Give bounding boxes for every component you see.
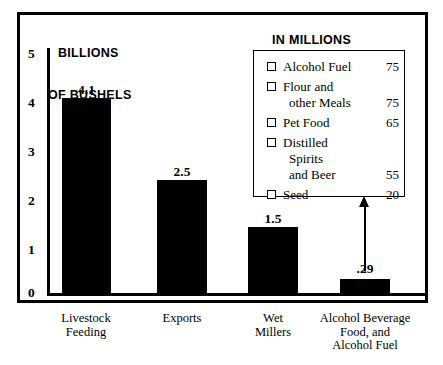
legend-item-label: Flour and <box>283 79 333 95</box>
bar <box>248 227 298 293</box>
y-axis-tick-label: 3 <box>28 145 42 158</box>
legend-item-line: other Meals75 <box>267 95 399 111</box>
legend-item: Pet Food65 <box>267 115 399 131</box>
y-axis-tick-label: 4 <box>28 96 42 109</box>
legend-item-label: Alcohol Fuel <box>283 59 351 75</box>
legend-item: DistilledSpiritsand Beer55 <box>267 135 399 183</box>
legend-item-line: Seed20 <box>267 187 399 203</box>
y-axis-title-line1: BILLIONS <box>48 46 132 60</box>
legend-item-value: 75 <box>386 95 399 111</box>
legend-list: Alcohol Fuel75Flour andother Meals75Pet … <box>267 59 399 207</box>
legend-item-value: 75 <box>386 59 399 75</box>
legend-item-value: 65 <box>386 115 399 131</box>
checkbox-icon[interactable] <box>267 138 276 147</box>
legend-item-label: and Beer <box>289 167 336 183</box>
bar <box>340 279 390 293</box>
bar <box>157 180 207 293</box>
legend-box: Alcohol Fuel75Flour andother Meals75Pet … <box>253 50 405 197</box>
checkbox-icon[interactable] <box>267 62 276 71</box>
checkbox-icon[interactable] <box>267 82 276 91</box>
legend-item-line: Flour and <box>267 79 399 95</box>
bar-chart: BILLIONS OF BUSHELS 543210 4.1Livestock … <box>0 0 443 365</box>
y-axis-line <box>47 48 50 296</box>
bar-value-label: 4.1 <box>62 83 111 97</box>
legend-item-value: 55 <box>386 167 399 183</box>
legend-item-label: other Meals <box>289 95 351 111</box>
legend-item-line: Alcohol Fuel75 <box>267 59 399 75</box>
x-axis-category-label: Exports <box>132 312 232 326</box>
x-axis-category-label: Alcohol Beverage Food, and Alcohol Fuel <box>305 312 425 353</box>
legend-item: Flour andother Meals75 <box>267 79 399 111</box>
bar-value-label: 2.5 <box>157 165 207 179</box>
legend-item-label: Pet Food <box>283 115 330 131</box>
y-axis-tick-label: 1 <box>28 243 42 256</box>
legend-item-value: 20 <box>386 187 399 203</box>
legend-item-line: Distilled <box>267 135 399 151</box>
legend-item-label: Seed <box>283 187 308 203</box>
y-axis-tick-label: 0 <box>28 286 42 299</box>
legend-item-label: Distilled <box>283 135 328 151</box>
x-axis-line <box>47 293 425 296</box>
legend-item-line: and Beer55 <box>267 167 399 183</box>
legend-item-label: Spirits <box>289 151 323 167</box>
legend-item-line: Pet Food65 <box>267 115 399 131</box>
callout-arrow-shaft <box>364 205 366 271</box>
bar-value-label: 1.5 <box>248 212 298 226</box>
legend-item: Alcohol Fuel75 <box>267 59 399 75</box>
y-axis-tick-label: 5 <box>28 47 42 60</box>
legend-title-line1: IN MILLIONS <box>272 33 351 47</box>
legend-item: Seed20 <box>267 187 399 203</box>
x-axis-category-label: Livestock Feeding <box>36 312 136 339</box>
checkbox-icon[interactable] <box>267 118 276 127</box>
legend-item-line: Spirits <box>267 151 399 167</box>
y-axis-tick-label: 2 <box>28 194 42 207</box>
bar <box>62 98 111 293</box>
checkbox-icon[interactable] <box>267 190 276 199</box>
